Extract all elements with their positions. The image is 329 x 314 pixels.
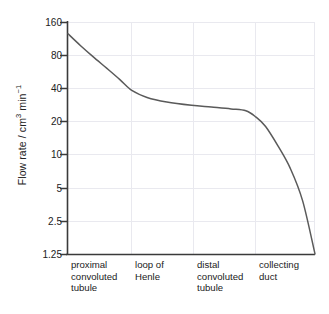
flow-rate-chart-figure: Flow rate / cm3 min−1 160 80 40 20 10 5 … bbox=[0, 0, 329, 314]
flow-rate-curve bbox=[68, 34, 315, 254]
x-category-label-loop-of-henle: loop of Henle bbox=[135, 259, 191, 282]
horizontal-gridlines bbox=[67, 23, 315, 222]
vertical-gridlines bbox=[132, 22, 315, 254]
x-category-label-distal-convoluted-tubule: distal convoluted tubule bbox=[197, 259, 255, 294]
y-axis-tick-marks bbox=[60, 23, 67, 255]
x-category-label-proximal-convoluted-tubule: proximal convoluted tubule bbox=[71, 259, 129, 294]
x-category-label-collecting-duct: collecting duct bbox=[259, 259, 317, 282]
